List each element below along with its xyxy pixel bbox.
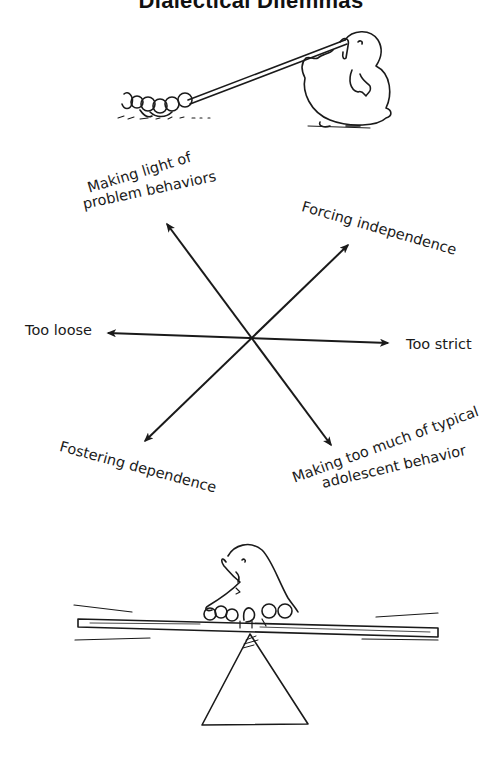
bottom-illustration-seesaw bbox=[0, 0, 502, 757]
seesaw-plank bbox=[78, 619, 438, 637]
parent-bird-icon bbox=[206, 545, 298, 612]
seesaw-fulcrum bbox=[202, 634, 308, 725]
